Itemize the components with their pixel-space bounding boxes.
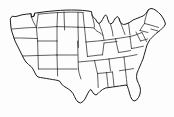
- us-outline-map: [0, 0, 174, 117]
- state-border-line: [38, 55, 57, 56]
- map-background: [0, 0, 174, 117]
- state-border-line: [23, 56, 39, 57]
- map-canvas: [0, 0, 174, 117]
